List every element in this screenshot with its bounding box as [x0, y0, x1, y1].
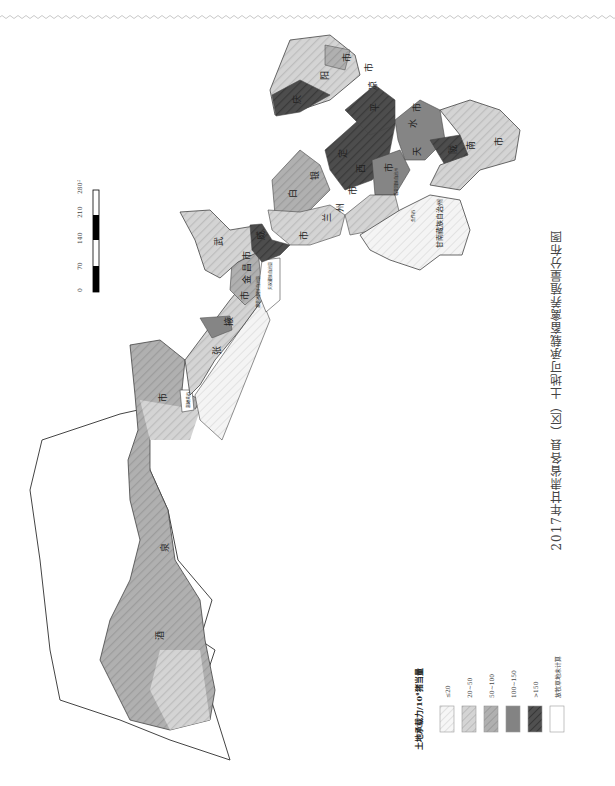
label-char: 定 [337, 149, 348, 158]
label-char: 庆 [291, 95, 302, 104]
legend-swatch-le20 [440, 706, 454, 732]
scale-tick: 140 [76, 232, 83, 244]
label-linxia: 临夏回族自治州 [393, 168, 399, 196]
label-char: 威 [255, 231, 266, 240]
scale-tick: 70 [76, 262, 83, 270]
label-char: 酒 [155, 631, 165, 640]
scale-tick: 0 [76, 288, 83, 292]
scale-segment [93, 215, 99, 240]
legend-swatch-gt150 [528, 706, 542, 732]
label-char: 兰 [321, 213, 332, 222]
label-char: 市 [298, 231, 309, 240]
label-char: 平 [370, 103, 380, 112]
map-title: 2017年甘肃省各县（区）土地可承载畜禽养殖量分布图 [548, 230, 565, 551]
legend: 土地承载力/10⁴猪当量 ≤20 20~50 50~100 100~150 >1… [400, 620, 580, 770]
label-char: 陇 [447, 145, 458, 154]
label-char: 水 [407, 119, 418, 128]
label-char: 市 [363, 63, 374, 72]
legend-swatch-50-100 [484, 706, 498, 732]
label-sunan: 肃南裕固族自治县 [255, 276, 261, 308]
scale-segment [93, 266, 99, 292]
legend-title: 土地承载力/10⁴猪当量 [414, 668, 424, 750]
label-char: 张 [212, 346, 222, 355]
label-jiayuguan: 嘉峪关市 [185, 392, 191, 408]
label-char: 银 [309, 171, 320, 180]
scale-tick: 280 [76, 182, 83, 194]
label-char: 天 [412, 147, 422, 156]
label-char: 白 [287, 189, 298, 198]
legend-label: 50~100 [488, 674, 495, 698]
label-char: 市 [493, 137, 504, 146]
label-char: 市 [341, 53, 352, 62]
label-char: 武 [213, 237, 224, 246]
label-gannan: 甘南藏族自治州 [435, 199, 444, 248]
legend-label: 100~150 [510, 670, 517, 698]
label-char: 昌 [242, 263, 252, 272]
legend-label: ≤20 [444, 685, 451, 698]
legend-label: 放牧草地未计算 [554, 656, 562, 698]
legend-label: >150 [532, 681, 539, 698]
scale-tick: 210 [76, 206, 83, 218]
label-char: 市 [347, 186, 358, 195]
legend-swatch-grassland [550, 706, 564, 732]
label-char: 市 [383, 163, 394, 172]
legend-swatch-20-50 [462, 706, 476, 732]
label-char: 市 [239, 291, 250, 300]
label-char: 南 [465, 141, 476, 150]
label-tianzhu: 天祝藏族自治县 [267, 262, 273, 290]
scale-unit: 千米 [76, 180, 84, 182]
label-hezuo: 合作市 [410, 210, 416, 222]
label-char: 市 [411, 103, 422, 112]
legend-swatch-100-150 [506, 706, 520, 732]
label-char: 掖 [223, 317, 234, 326]
label-char: 市 [241, 251, 252, 260]
label-char: 凉 [367, 81, 378, 90]
label-char: 金 [241, 275, 252, 284]
label-char: 泉 [159, 543, 170, 552]
label-jinchang: 金 昌 市 [241, 251, 252, 284]
label-char: 市 [157, 393, 168, 402]
legend-label: 20~50 [466, 678, 473, 698]
label-char: 西 [356, 164, 366, 173]
scale-bar: 0 70 140 210 280 千米 [68, 180, 128, 360]
label-char: 州 [335, 203, 345, 212]
label-char: 阳 [320, 71, 330, 80]
